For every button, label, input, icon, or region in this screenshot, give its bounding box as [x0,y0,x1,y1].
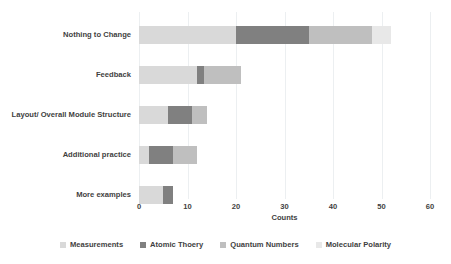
y-axis-label-0: Nothing to Change [0,26,131,44]
bar-segment-measurements[interactable] [139,26,236,44]
bar-row: Feedback [139,66,430,84]
y-axis-label-2: Layout/ Overall Module Structure [0,106,131,124]
bar-segment-molecular-polarity[interactable] [372,26,391,44]
bar-segment-atomic-thoery[interactable] [163,186,173,204]
legend-swatch-icon [316,242,322,248]
bar-segment-quantum-numbers[interactable] [173,146,197,164]
x-axis-title: Counts [139,213,430,222]
bar-segment-measurements[interactable] [139,66,197,84]
plot-area: 0102030405060CountsNothing to ChangeFeed… [139,12,430,199]
legend-item-measurements[interactable]: Measurements [60,240,123,249]
bar-segment-quantum-numbers[interactable] [192,106,207,124]
legend-swatch-icon [220,242,226,248]
bar-segment-atomic-thoery[interactable] [168,106,192,124]
stacked-bar[interactable] [139,146,197,164]
bar-row: Nothing to Change [139,26,430,44]
bar-segment-quantum-numbers[interactable] [204,66,240,84]
legend-label: Measurements [70,240,123,249]
stacked-bar[interactable] [139,106,207,124]
bar-row: Additional practice [139,146,430,164]
legend-label: Quantum Numbers [230,240,298,249]
legend-item-atomic-thoery[interactable]: Atomic Thoery [140,240,203,249]
legend-swatch-icon [60,242,66,248]
bar-row: More examples [139,186,430,204]
bar-segment-measurements[interactable] [139,106,168,124]
y-axis-label-3: Additional practice [0,146,131,164]
legend-label: Molecular Polarity [326,240,391,249]
bar-segment-atomic-thoery[interactable] [197,66,204,84]
bar-row: Layout/ Overall Module Structure [139,106,430,124]
stacked-bar[interactable] [139,186,173,204]
bar-segment-quantum-numbers[interactable] [309,26,372,44]
stacked-bar-chart: 0102030405060CountsNothing to ChangeFeed… [0,0,451,264]
bar-segment-atomic-thoery[interactable] [149,146,173,164]
gridline-60 [430,12,431,199]
y-axis-label-1: Feedback [0,66,131,84]
stacked-bar[interactable] [139,66,241,84]
legend-label: Atomic Thoery [150,240,203,249]
chart-legend: MeasurementsAtomic ThoeryQuantum Numbers… [0,240,451,249]
bar-segment-measurements[interactable] [139,186,163,204]
stacked-bar[interactable] [139,26,391,44]
legend-item-quantum-numbers[interactable]: Quantum Numbers [220,240,298,249]
bar-segment-measurements[interactable] [139,146,149,164]
legend-item-molecular-polarity[interactable]: Molecular Polarity [316,240,391,249]
bar-segment-atomic-thoery[interactable] [236,26,309,44]
legend-swatch-icon [140,242,146,248]
y-axis-label-4: More examples [0,186,131,204]
